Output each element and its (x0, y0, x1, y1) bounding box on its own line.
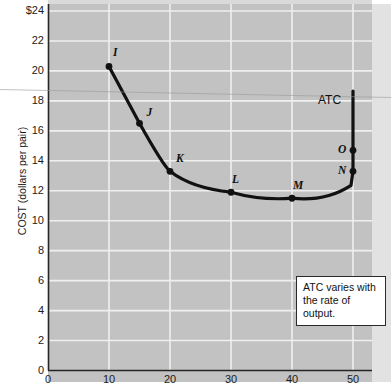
x-tick-label: 40 (272, 373, 312, 385)
y-tick-label: 2 (0, 334, 44, 346)
chart-canvas (0, 0, 391, 388)
data-point-label-o: O (338, 143, 346, 155)
x-tick-label: 30 (211, 373, 251, 385)
x-tick-label: 0 (28, 373, 68, 385)
data-point-marker (167, 168, 174, 175)
atc-curve-label: ATC (318, 93, 341, 107)
x-tick-label: 20 (150, 373, 190, 385)
data-point-marker (350, 147, 357, 154)
data-point-label-j: J (147, 106, 153, 118)
data-point-marker (350, 168, 357, 175)
y-tick-label: $24 (0, 4, 44, 16)
y-tick-label: 4 (0, 304, 44, 316)
data-point-label-i: I (113, 46, 117, 58)
data-point-marker (228, 189, 235, 196)
y-tick-label: 22 (0, 34, 44, 46)
data-point-marker (136, 120, 143, 127)
x-tick-label: 50 (333, 373, 373, 385)
chart-page: $242220181614121086420 01020304050 IJKLM… (0, 0, 391, 388)
x-tick-label: 10 (89, 373, 129, 385)
annotation-callout: ATC varies with the rate of output. (296, 276, 386, 326)
data-point-label-n: N (338, 164, 346, 176)
y-tick-label: 6 (0, 274, 44, 286)
data-point-marker (289, 195, 296, 202)
data-point-label-k: K (176, 152, 184, 164)
y-tick-label: 20 (0, 64, 44, 76)
y-axis-title: COST (dollars per pair) (16, 91, 28, 271)
annotation-line-1: ATC varies with (303, 281, 380, 294)
data-point-marker (106, 63, 113, 70)
annotation-line-2: the rate of output. (303, 294, 380, 320)
data-point-label-l: L (232, 173, 239, 185)
data-point-label-m: M (293, 179, 303, 191)
